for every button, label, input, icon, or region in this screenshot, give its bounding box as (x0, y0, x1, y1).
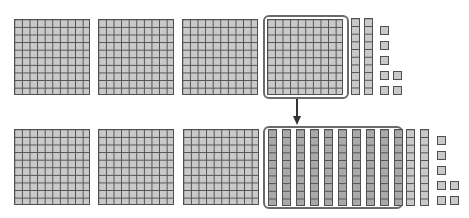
ten-rod-regrouped (296, 129, 305, 206)
one-cube (380, 86, 389, 95)
one-cube (380, 26, 389, 35)
hundred-flat-3 (182, 19, 258, 95)
hundred-flat-3 (183, 129, 259, 205)
ten-rod-regrouped (268, 129, 277, 206)
one-cube (437, 136, 446, 145)
ten-rod (406, 129, 415, 206)
one-cube (437, 196, 446, 205)
hundred-flat-1 (14, 129, 90, 205)
hundred-flat-1 (14, 19, 90, 95)
arrow-down-icon (293, 116, 301, 125)
one-cube (380, 41, 389, 50)
ten-rod-regrouped (310, 129, 319, 206)
hundred-flat-2 (98, 129, 174, 205)
ten-rod (420, 129, 429, 206)
one-cube (450, 196, 459, 205)
hundred-flat-4 (267, 19, 343, 95)
one-cube (437, 151, 446, 160)
ten-rod-regrouped (352, 129, 361, 206)
ten-rod-regrouped (366, 129, 375, 206)
one-cube (393, 86, 402, 95)
ten-rod (364, 18, 373, 95)
ten-rod-regrouped (282, 129, 291, 206)
ten-rod-regrouped (394, 129, 403, 206)
one-cube (380, 71, 389, 80)
ten-rod (351, 18, 360, 95)
one-cube (393, 71, 402, 80)
one-cube (437, 181, 446, 190)
ten-rod-regrouped (338, 129, 347, 206)
one-cube (437, 166, 446, 175)
ten-rod-regrouped (380, 129, 389, 206)
one-cube (450, 181, 459, 190)
one-cube (380, 56, 389, 65)
hundred-flat-2 (98, 19, 174, 95)
arrow-shaft (296, 99, 298, 117)
ten-rod-regrouped (324, 129, 333, 206)
